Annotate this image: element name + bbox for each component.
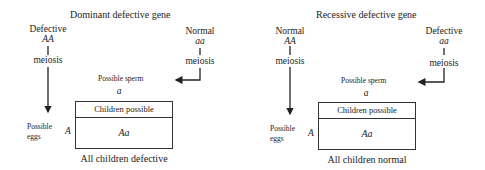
left-parent-meiosis: meiosis bbox=[275, 56, 304, 66]
sperm-allele: a bbox=[117, 86, 122, 96]
child-genotype: Aa bbox=[319, 119, 415, 149]
punnett-square: Children possible Aa bbox=[75, 101, 173, 149]
table-header: Children possible bbox=[319, 103, 415, 119]
panel-title: Dominant defective gene bbox=[70, 9, 171, 20]
conclusion: All children defective bbox=[80, 153, 167, 164]
sperm-allele: a bbox=[364, 88, 369, 98]
sperm-label: Possible sperm bbox=[341, 76, 386, 85]
left-parent-genotype: AA bbox=[42, 34, 54, 44]
eggs-label: Possible eggs bbox=[270, 124, 295, 144]
right-parent-label: Defective bbox=[426, 26, 463, 36]
right-parent-meiosis: meiosis bbox=[185, 56, 214, 66]
right-parent-label: Normal bbox=[185, 26, 214, 36]
left-parent-genotype: AA bbox=[284, 36, 296, 46]
punnett-square: Children possible Aa bbox=[318, 102, 416, 150]
right-parent-genotype: aa bbox=[195, 36, 205, 46]
child-genotype: Aa bbox=[76, 118, 172, 148]
sperm-label: Possible sperm bbox=[98, 74, 143, 83]
panel-title: Recessive defective gene bbox=[316, 9, 417, 20]
egg-allele: A bbox=[65, 126, 71, 136]
right-parent-meiosis: meiosis bbox=[429, 58, 458, 68]
table-header: Children possible bbox=[76, 102, 172, 118]
conclusion: All children normal bbox=[328, 154, 407, 165]
left-parent-label: Defective bbox=[30, 24, 67, 34]
right-parent-genotype: aa bbox=[439, 36, 449, 46]
left-parent-meiosis: meiosis bbox=[33, 55, 62, 65]
egg-allele: A bbox=[308, 128, 314, 138]
eggs-label: Possible eggs bbox=[27, 122, 52, 142]
left-parent-label: Normal bbox=[275, 26, 304, 36]
